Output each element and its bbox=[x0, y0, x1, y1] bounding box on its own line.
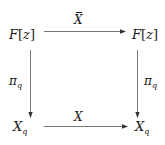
left-arrow-label: πq bbox=[9, 75, 22, 87]
node-bottom-right-sub: q bbox=[144, 127, 149, 136]
right-arrow-label-main: π bbox=[144, 74, 152, 88]
left-arrow-label-main: π bbox=[9, 74, 17, 88]
node-top-left: F[z] bbox=[9, 28, 35, 41]
left-arrow-label-sub: q bbox=[17, 81, 22, 90]
node-bottom-right: Xq bbox=[135, 120, 149, 133]
top-arrow-label: X bbox=[74, 14, 83, 26]
node-top-left-var: z bbox=[23, 27, 30, 42]
bottom-arrow-label-text: X bbox=[74, 110, 83, 124]
node-top-right: F[z] bbox=[132, 28, 158, 41]
node-top-left-main: F bbox=[9, 27, 18, 42]
bottom-arrow-label: X bbox=[74, 111, 83, 123]
node-top-right-var: z bbox=[146, 27, 153, 42]
right-arrow-label: πq bbox=[144, 75, 157, 87]
node-top-right-main: F bbox=[132, 27, 141, 42]
node-bottom-left: Xq bbox=[13, 120, 27, 133]
node-top-left-close: ] bbox=[30, 27, 35, 42]
node-bottom-right-main: X bbox=[135, 119, 144, 134]
node-top-right-close: ] bbox=[153, 27, 158, 42]
top-arrow-label-text: X bbox=[74, 14, 83, 26]
right-arrow-label-sub: q bbox=[152, 81, 157, 90]
node-bottom-left-main: X bbox=[13, 119, 22, 134]
node-bottom-left-sub: q bbox=[22, 127, 27, 136]
